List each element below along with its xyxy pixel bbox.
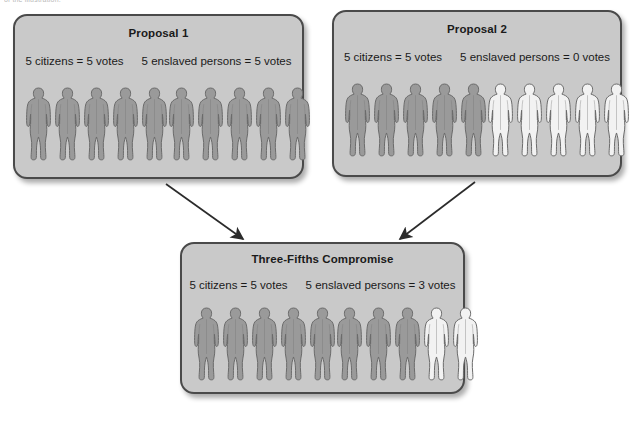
figure-group-enslaved-persons [487, 82, 630, 158]
panel-proposal-1-caption: 5 citizens = 5 votes 5 enslaved persons … [15, 55, 302, 67]
person-filled-icon [365, 306, 392, 382]
person-filled-icon [373, 82, 400, 158]
person-filled-icon [255, 86, 282, 162]
person-filled-icon [402, 82, 429, 158]
person-filled-icon [141, 86, 168, 162]
figure-group-citizens [25, 86, 168, 162]
person-filled-icon [431, 82, 458, 158]
figure-group-citizens [193, 306, 336, 382]
person-outline-icon [452, 306, 479, 382]
panel-proposal-2: Proposal 2 5 citizens = 5 votes 5 enslav… [332, 10, 622, 177]
caption-enslaved: 5 enslaved persons = 3 votes [297, 279, 456, 291]
person-filled-icon [309, 306, 336, 382]
diagram-canvas: of the illustration. Proposal 1 5 citize… [0, 0, 635, 424]
figure-group-enslaved-persons [336, 306, 479, 382]
person-filled-icon [394, 306, 421, 382]
clipped-top-caption: of the illustration. [4, 0, 61, 3]
panel-proposal-1: Proposal 1 5 citizens = 5 votes 5 enslav… [13, 14, 304, 179]
person-filled-icon [460, 82, 487, 158]
person-filled-icon [344, 82, 371, 158]
panel-compromise-figures [193, 306, 452, 382]
panel-compromise-title: Three-Fifths Compromise [182, 253, 463, 265]
person-outline-icon [545, 82, 572, 158]
person-filled-icon [197, 86, 224, 162]
caption-citizens: 5 citizens = 5 votes [189, 279, 296, 291]
caption-citizens: 5 citizens = 5 votes [344, 51, 451, 63]
person-outline-icon [516, 82, 543, 158]
arrow-proposal1-to-compromise [166, 184, 243, 239]
figure-group-citizens [344, 82, 487, 158]
panel-proposal-2-title: Proposal 2 [334, 23, 620, 35]
person-filled-icon [226, 86, 253, 162]
person-filled-icon [25, 86, 52, 162]
person-filled-icon [112, 86, 139, 162]
person-filled-icon [251, 306, 278, 382]
panel-three-fifths-compromise: Three-Fifths Compromise 5 citizens = 5 v… [180, 242, 465, 394]
person-outline-icon [423, 306, 450, 382]
panel-proposal-2-caption: 5 citizens = 5 votes 5 enslaved persons … [334, 51, 620, 63]
arrow-proposal2-to-compromise [400, 182, 475, 239]
person-filled-icon [284, 86, 311, 162]
figure-group-enslaved-persons [168, 86, 311, 162]
caption-enslaved: 5 enslaved persons = 5 votes [133, 55, 292, 67]
caption-citizens: 5 citizens = 5 votes [25, 55, 132, 67]
panel-proposal-1-title: Proposal 1 [15, 27, 302, 39]
person-filled-icon [193, 306, 220, 382]
person-filled-icon [280, 306, 307, 382]
panel-proposal-1-figures [25, 84, 292, 162]
person-filled-icon [54, 86, 81, 162]
person-filled-icon [222, 306, 249, 382]
person-outline-icon [603, 82, 630, 158]
person-filled-icon [168, 86, 195, 162]
panel-compromise-caption: 5 citizens = 5 votes 5 enslaved persons … [182, 279, 463, 291]
panel-proposal-2-figures [344, 80, 610, 158]
person-outline-icon [487, 82, 514, 158]
person-outline-icon [574, 82, 601, 158]
caption-enslaved: 5 enslaved persons = 0 votes [451, 51, 610, 63]
person-filled-icon [83, 86, 110, 162]
person-filled-icon [336, 306, 363, 382]
